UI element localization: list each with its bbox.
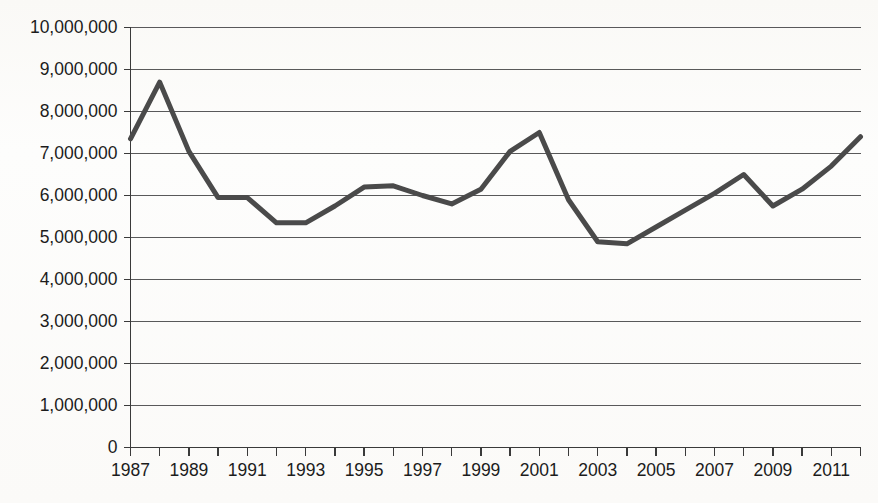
x-tick-label: 1999 <box>461 460 500 480</box>
x-tick-label: 2003 <box>578 460 617 480</box>
y-tick-label: 6,000,000 <box>40 185 118 205</box>
x-tick-label: 1995 <box>345 460 384 480</box>
x-tick-label: 2009 <box>753 460 792 480</box>
line-chart: 01,000,0002,000,0003,000,0004,000,0005,0… <box>0 0 878 503</box>
x-tick-label: 1987 <box>111 460 150 480</box>
y-tick-label: 0 <box>108 437 118 457</box>
gridlines <box>131 28 861 406</box>
y-axis-tick-marks <box>124 28 131 448</box>
x-tick-label: 1993 <box>286 460 325 480</box>
y-tick-label: 4,000,000 <box>40 269 118 289</box>
data-series-line <box>131 82 861 244</box>
y-tick-label: 10,000,000 <box>30 17 118 37</box>
x-axis-tick-labels: 1987198919911993199519971999200120032005… <box>111 460 850 480</box>
x-tick-label: 2007 <box>695 460 734 480</box>
x-tick-label: 2011 <box>812 460 850 480</box>
chart-svg: 01,000,0002,000,0003,000,0004,000,0005,0… <box>0 0 878 503</box>
y-tick-label: 5,000,000 <box>40 227 118 247</box>
y-tick-label: 9,000,000 <box>40 59 118 79</box>
x-tick-label: 1991 <box>228 460 267 480</box>
y-tick-label: 2,000,000 <box>40 353 118 373</box>
x-tick-label: 2005 <box>637 460 676 480</box>
y-tick-label: 8,000,000 <box>40 101 118 121</box>
y-tick-label: 3,000,000 <box>40 311 118 331</box>
y-axis-tick-labels: 01,000,0002,000,0003,000,0004,000,0005,0… <box>30 17 118 457</box>
x-axis-tick-marks <box>131 448 861 456</box>
x-tick-label: 1989 <box>169 460 208 480</box>
x-tick-label: 2001 <box>520 460 559 480</box>
y-tick-label: 7,000,000 <box>40 143 118 163</box>
x-tick-label: 1997 <box>403 460 442 480</box>
y-tick-label: 1,000,000 <box>40 395 118 415</box>
